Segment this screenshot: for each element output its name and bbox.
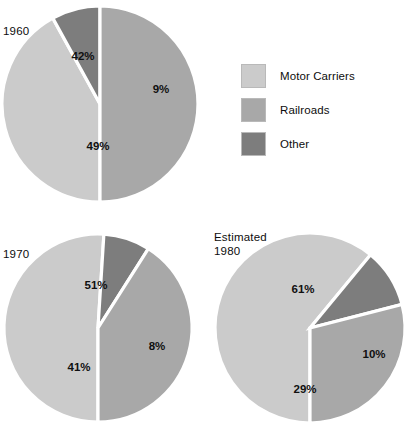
pie-1960-value-railroads: 49% — [86, 140, 109, 152]
legend: Motor Carriers Railroads Other — [241, 61, 411, 163]
legend-swatch-motor-carriers — [241, 64, 266, 88]
legend-swatch-railroads — [241, 98, 266, 122]
legend-item-railroads[interactable]: Railroads — [241, 95, 411, 125]
pie-1970-value-railroads: 41% — [67, 361, 90, 373]
chart-title-1960: 1960 — [3, 24, 29, 38]
chart-title-1980-line2: 1980 — [214, 244, 267, 258]
chart-title-1960-text: 1960 — [3, 25, 29, 37]
pie-1970-slice-motor-carriers[interactable] — [4, 234, 104, 422]
legend-label-other: Other — [280, 138, 309, 150]
pie-1960: 42%9%49% — [2, 6, 198, 202]
legend-label-railroads: Railroads — [280, 104, 329, 116]
legend-item-other[interactable]: Other — [241, 129, 411, 159]
chart-title-1970: 1970 — [3, 247, 29, 261]
chart-title-1970-text: 1970 — [3, 248, 29, 260]
pie-1970-value-other: 8% — [149, 340, 166, 352]
pie-1960-value-other: 9% — [153, 83, 170, 95]
pie-1980-value-motor-carriers: 61% — [291, 283, 314, 295]
legend-item-motor-carriers[interactable]: Motor Carriers — [241, 61, 411, 91]
chart-title-1980: Estimated 1980 — [214, 230, 267, 258]
pie-1980-value-other: 10% — [362, 348, 385, 360]
chart-title-1980-line1: Estimated — [214, 230, 267, 244]
legend-label-motor-carriers: Motor Carriers — [280, 70, 355, 82]
legend-swatch-other — [241, 132, 266, 156]
pie-chart-figure: 42%9%49%51%8%41%61%10%29% 1960 1970 Esti… — [0, 0, 414, 429]
pie-1970-value-motor-carriers: 51% — [84, 279, 107, 291]
pie-1960-value-motor-carriers: 42% — [71, 50, 94, 62]
pie-1970: 51%8%41% — [4, 234, 192, 422]
pie-1980: 61%10%29% — [215, 233, 405, 423]
pie-1960-slice-railroads[interactable] — [100, 6, 198, 202]
pie-1980-value-railroads: 29% — [293, 383, 316, 395]
